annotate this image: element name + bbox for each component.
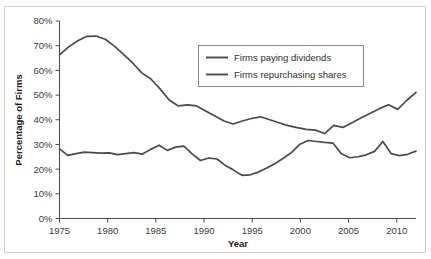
legend-label-dividends: Firms paying dividends — [234, 52, 331, 63]
y-tick-label: 40% — [33, 114, 53, 125]
x-tick-label: 2000 — [290, 225, 311, 236]
y-tick-label: 70% — [33, 40, 53, 51]
series-line-repurchase — [60, 140, 417, 175]
chart-legend: Firms paying dividends Firms repurchasin… — [199, 46, 364, 87]
x-tick-label: 1980 — [97, 225, 118, 236]
x-tick-label: 1990 — [193, 225, 214, 236]
y-axis-tick-labels: 0%10%20%30%40%50%60%70%80% — [33, 15, 53, 224]
y-axis-title: Percentage of Firms — [13, 74, 24, 165]
x-tick-label: 1985 — [145, 225, 166, 236]
y-tick-label: 50% — [33, 89, 53, 100]
y-axis-ticks — [56, 21, 60, 219]
x-axis-ticks — [60, 219, 397, 223]
y-tick-label: 0% — [39, 213, 53, 224]
x-tick-label: 1995 — [242, 225, 263, 236]
x-tick-label: 2010 — [386, 225, 407, 236]
x-axis-tick-labels: 19751980198519901995200020052010 — [49, 225, 407, 236]
y-tick-label: 20% — [33, 164, 53, 175]
legend-label-repurchase: Firms repurchasing shares — [234, 69, 347, 80]
chart-figure: 0%10%20%30%40%50%60%70%80% 1975198019851… — [0, 0, 431, 259]
y-tick-label: 80% — [33, 15, 53, 26]
x-axis-title: Year — [228, 238, 248, 249]
y-tick-label: 60% — [33, 65, 53, 76]
x-tick-label: 2005 — [338, 225, 359, 236]
y-tick-label: 30% — [33, 139, 53, 150]
y-tick-label: 10% — [33, 188, 53, 199]
x-tick-label: 1975 — [49, 225, 70, 236]
line-chart-canvas: 0%10%20%30%40%50%60%70%80% 1975198019851… — [0, 0, 431, 259]
